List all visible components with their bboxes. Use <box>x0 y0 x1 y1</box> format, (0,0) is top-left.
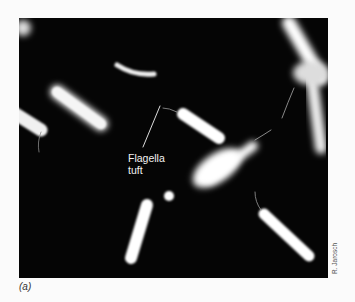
micrograph: Flagella tuft <box>19 18 328 278</box>
photo-credit: R. Jarosch <box>331 243 338 274</box>
annotation-line2: tuft <box>128 164 165 176</box>
annotation-line1: Flagella <box>128 152 165 164</box>
panel-label: (a) <box>19 281 31 292</box>
flagella-label: Flagella tuft <box>128 152 165 176</box>
bacteria-illustration <box>19 18 328 278</box>
